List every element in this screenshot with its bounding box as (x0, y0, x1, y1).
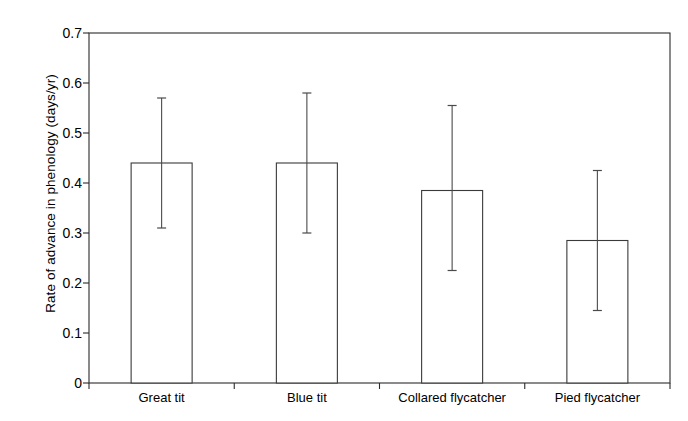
x-axis-category-label: Collared flycatcher (398, 390, 506, 405)
x-axis-category-label: Pied flycatcher (555, 390, 640, 405)
x-axis-category-label: Blue tit (287, 390, 327, 405)
bar-chart-figure: Rate of advance in phenology (days/yr) 0… (0, 0, 688, 421)
plot-area (0, 0, 688, 421)
x-axis-category-label: Great tit (139, 390, 185, 405)
